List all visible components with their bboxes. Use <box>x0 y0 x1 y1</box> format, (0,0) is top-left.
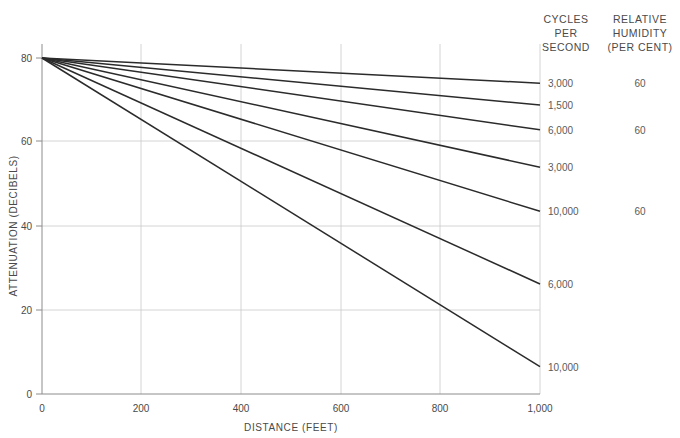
ytick-label-0: 0 <box>26 389 32 400</box>
data-curves <box>42 58 540 367</box>
xtick-label-800: 800 <box>432 403 449 414</box>
y-axis-tick-labels: 80 60 40 20 0 <box>21 53 33 400</box>
legend-header-humidity-line2: HUMIDITY <box>613 27 668 39</box>
curve-10,000-b <box>42 58 540 367</box>
horizontal-gridlines <box>42 141 540 310</box>
xtick-label-1000: 1,000 <box>527 403 552 414</box>
vertical-gridlines <box>141 44 540 394</box>
x-axis-title: DISTANCE (FEET) <box>244 422 338 433</box>
chart-svg: 80 60 40 20 0 0 200 400 600 800 1,000 DI… <box>0 0 680 438</box>
xtick-label-400: 400 <box>233 403 250 414</box>
legend-rows: 3,000601,5006,000603,00010,000606,00010,… <box>548 78 646 373</box>
xtick-label-200: 200 <box>133 403 150 414</box>
legend-frequency-5: 6,000 <box>548 279 573 290</box>
legend-frequency-0: 3,000 <box>548 78 573 89</box>
legend-frequency-3: 3,000 <box>548 162 573 173</box>
legend-humidity-4: 60 <box>634 206 646 217</box>
axes <box>42 44 540 394</box>
legend-frequency-4: 10,000 <box>548 206 579 217</box>
y-axis-ticks <box>36 58 42 394</box>
legend-header-cycles-line3: SECOND <box>542 41 590 53</box>
chart-figure: 80 60 40 20 0 0 200 400 600 800 1,000 DI… <box>0 0 680 438</box>
y-axis-title: ATTENUATION (DECIBELS) <box>8 155 19 296</box>
legend-humidity-0: 60 <box>634 78 646 89</box>
legend-header-humidity-line1: RELATIVE <box>613 13 667 25</box>
legend-frequency-2: 6,000 <box>548 125 573 136</box>
curve-6,000-a <box>42 58 540 130</box>
x-axis-tick-labels: 0 200 400 600 800 1,000 <box>39 403 553 414</box>
ytick-label-20: 20 <box>21 305 33 316</box>
legend-header-cycles-line2: PER <box>554 27 577 39</box>
legend-header-cycles-line1: CYCLES <box>543 13 588 25</box>
curve-3,000-b <box>42 58 540 167</box>
ytick-label-80: 80 <box>21 53 33 64</box>
legend-frequency-1: 1,500 <box>548 100 573 111</box>
xtick-label-0: 0 <box>39 403 45 414</box>
curve-6,000-b <box>42 58 540 284</box>
legend-header-frequency: CYCLES PER SECOND <box>542 13 590 53</box>
xtick-label-600: 600 <box>333 403 350 414</box>
ytick-label-40: 40 <box>21 221 33 232</box>
legend-humidity-2: 60 <box>634 125 646 136</box>
legend-frequency-6: 10,000 <box>548 362 579 373</box>
curve-3,000 <box>42 58 540 83</box>
legend-header-humidity-line3: (PER CENT) <box>607 41 672 53</box>
ytick-label-60: 60 <box>21 136 33 147</box>
legend-header-humidity: RELATIVE HUMIDITY (PER CENT) <box>607 13 672 53</box>
